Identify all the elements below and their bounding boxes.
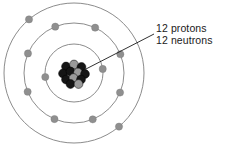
callout-line-protons: 12 protons	[156, 22, 213, 34]
electron-3-1	[25, 16, 32, 23]
electron-2-7	[89, 116, 96, 123]
electron-2-2	[92, 24, 99, 31]
electron-1-2	[42, 73, 49, 80]
electron-2-3	[52, 23, 59, 30]
electron-2-5	[24, 88, 31, 95]
nucleus-proton-11	[66, 80, 75, 89]
callout-text-block: 12 protons 12 neutrons	[156, 22, 213, 46]
atom-diagram: 12 protons 12 neutrons	[0, 0, 225, 150]
electron-1-1	[99, 65, 106, 72]
callout-line-neutrons: 12 neutrons	[156, 34, 213, 46]
electron-2-4	[24, 50, 31, 57]
nucleus-cluster	[59, 60, 90, 88]
electron-3-2	[115, 123, 122, 130]
electron-2-8	[116, 89, 123, 96]
electron-2-6	[51, 115, 58, 122]
nucleus-neutron-12	[74, 80, 83, 89]
